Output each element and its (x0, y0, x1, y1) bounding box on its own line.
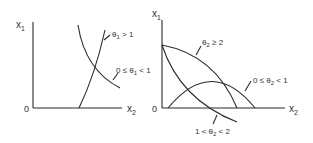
left-origin-label: 0 (24, 104, 29, 114)
right-origin-label: 0 (152, 104, 157, 114)
right-label-theta2-0-to-1: 0 ≤ θ2 < 1 (253, 76, 288, 86)
left-y-axis-label: x1 (16, 19, 25, 32)
left-curve-theta1-gt-1 (79, 30, 105, 108)
left-panel (33, 22, 122, 108)
right-panel (162, 20, 285, 124)
right-x-axis-label: x2 (289, 103, 298, 116)
left-label-theta1-gt-1: θ1 > 1 (112, 30, 134, 40)
right-pointer-theta2-1-to-2 (213, 115, 217, 124)
right-pointer-theta2-ge-2 (196, 46, 201, 55)
left-label-theta1-0-to-1: 0 ≤ θ1 < 1 (116, 66, 151, 76)
right-curve-theta2-0-to-1 (168, 82, 255, 109)
diagram-canvas: x1 0 x2 θ1 > 1 0 ≤ θ1 < 1 x1 0 x2 θ2 ≥ 2… (0, 0, 313, 143)
right-curve-theta2-ge-2 (162, 45, 237, 108)
left-pointer-theta1-gt-1 (104, 35, 110, 40)
right-pointer-theta2-0-to-1 (245, 81, 251, 91)
left-x-axis-label: x2 (127, 103, 136, 116)
right-label-theta2-1-to-2: 1 < θ2 < 2 (195, 127, 230, 137)
right-y-axis-label: x1 (152, 8, 161, 21)
right-label-theta2-ge-2: θ2 ≥ 2 (202, 38, 224, 48)
